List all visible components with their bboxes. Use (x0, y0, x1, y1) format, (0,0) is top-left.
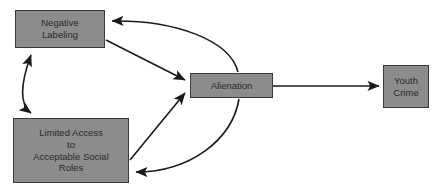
node-alienation-label: Alienation (208, 80, 256, 92)
node-limited-access-label: Limited Access to Acceptable Social Role… (30, 127, 112, 175)
node-negative-labeling[interactable]: Negative Labeling (15, 10, 105, 48)
diagram-canvas: Negative Labeling Limited Access to Acce… (0, 0, 445, 196)
edge-limited-access-to-alienation (130, 93, 185, 160)
edge-negative-labeling-to-limited-access (23, 55, 31, 113)
edge-negative-labeling-to-alienation (106, 40, 185, 80)
node-youth-crime[interactable]: Youth Crime (383, 65, 429, 108)
node-negative-labeling-label: Negative Labeling (38, 17, 82, 41)
edge-alienation-to-limited-access (136, 99, 239, 172)
node-youth-crime-label: Youth Crime (390, 75, 421, 99)
edge-alienation-to-negative-labeling (112, 21, 238, 72)
node-alienation[interactable]: Alienation (190, 73, 273, 98)
node-limited-access[interactable]: Limited Access to Acceptable Social Role… (13, 118, 129, 183)
